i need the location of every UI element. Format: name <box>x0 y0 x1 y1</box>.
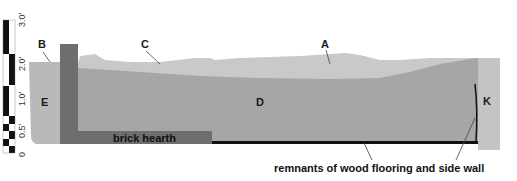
profile-diagram: 0 0.5' 1.0' 2.0' 3.0' B C A E D K brick … <box>0 0 517 181</box>
scale-tick-1-0: 1.0' <box>17 92 27 106</box>
layer-label-a: A <box>321 39 329 50</box>
layer-label-k: K <box>483 96 491 107</box>
profile-drawing <box>0 0 517 181</box>
scale-tick-0-5: 0.5' <box>17 124 27 138</box>
layer-label-d: D <box>256 97 264 108</box>
chimney <box>60 44 78 144</box>
layer-label-e: E <box>41 97 48 108</box>
hearth-label: brick hearth <box>113 132 176 144</box>
layer-label-c: C <box>141 39 149 50</box>
scale-tick-2-0: 2.0' <box>17 57 27 71</box>
layer-label-b: B <box>38 39 46 50</box>
floor-label: remnants of wood flooring and side wall <box>274 162 484 174</box>
scale-tick-3-0: 3.0' <box>17 13 27 27</box>
wood-floor-line <box>212 141 478 144</box>
scale-tick-0: 0 <box>17 152 27 157</box>
scale-bar <box>3 20 15 153</box>
